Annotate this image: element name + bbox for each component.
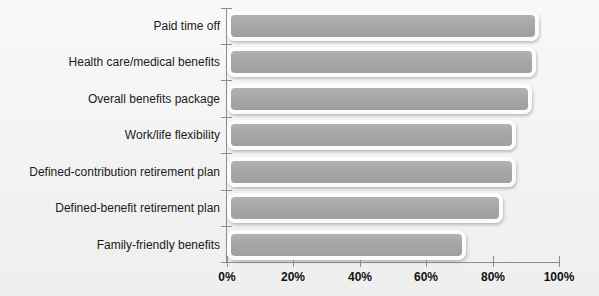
bar-defined-benefit-retirement-plan bbox=[227, 193, 503, 223]
category-label-work-life-flexibility: Work/life flexibility bbox=[125, 128, 220, 142]
x-axis-label-100: 100% bbox=[529, 270, 589, 284]
y-axis-tick bbox=[221, 44, 232, 45]
y-axis-tick bbox=[221, 117, 232, 118]
category-label-defined-contribution-retirement: Defined-contribution retirement plan bbox=[29, 165, 220, 179]
y-axis-tick bbox=[221, 226, 232, 227]
y-axis-tick bbox=[221, 190, 232, 191]
x-axis-label-60: 60% bbox=[396, 270, 456, 284]
x-axis-tick bbox=[227, 256, 228, 267]
x-axis-label-80: 80% bbox=[463, 270, 523, 284]
bar-defined-contribution-retirement-plan bbox=[227, 157, 516, 187]
bar-work-life-flexibility bbox=[227, 120, 516, 150]
category-label-paid-time-off: Paid time off bbox=[154, 19, 220, 33]
bar-family-friendly-benefits bbox=[227, 230, 466, 260]
bar-paid-time-off bbox=[227, 11, 539, 41]
x-axis-line bbox=[227, 262, 560, 263]
x-axis-label-0: 0% bbox=[197, 270, 257, 284]
bar-chart: 0% 20% 40% 60% 80% 100% Paid time off He… bbox=[0, 0, 599, 296]
y-axis-tick bbox=[221, 8, 232, 9]
x-axis-label-20: 20% bbox=[263, 270, 323, 284]
category-label-overall-benefits-package: Overall benefits package bbox=[88, 92, 220, 106]
category-label-family-friendly-benefits: Family-friendly benefits bbox=[97, 238, 220, 252]
x-axis-tick bbox=[493, 256, 494, 267]
category-label-health-care-medical-benefits: Health care/medical benefits bbox=[69, 55, 220, 69]
y-axis-tick bbox=[221, 80, 232, 81]
bar-overall-benefits-package bbox=[227, 84, 532, 114]
category-label-defined-benefit-retirement: Defined-benefit retirement plan bbox=[55, 201, 220, 215]
bar-health-care-medical-benefits bbox=[227, 47, 536, 77]
x-axis-tick bbox=[559, 256, 560, 267]
y-axis-tick bbox=[221, 153, 232, 154]
x-axis-label-40: 40% bbox=[330, 270, 390, 284]
